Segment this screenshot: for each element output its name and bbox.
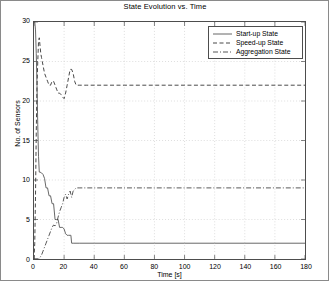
- y-tick-label: 5: [2, 216, 30, 224]
- y-tick-label: 20: [2, 97, 30, 105]
- y-tick-label: 10: [2, 176, 30, 184]
- legend-line-sample-dashdot: [212, 48, 233, 56]
- y-tick-label: 15: [2, 137, 30, 145]
- x-axis-label: Time [s]: [33, 271, 306, 278]
- legend-item: Start-up State: [212, 29, 299, 38]
- series-line-2: [34, 188, 305, 259]
- legend-item: Speed-up State: [212, 38, 299, 47]
- series-line-1: [34, 38, 305, 259]
- chart-title: State Evolution vs. Time: [0, 2, 330, 11]
- x-tick-label: 140: [232, 262, 258, 271]
- x-tick-label: 20: [50, 262, 76, 271]
- y-tick-label: 25: [2, 57, 30, 65]
- legend-line-sample-solid: [212, 30, 233, 38]
- legend-label: Speed-up State: [236, 38, 283, 47]
- x-tick-label: 160: [263, 262, 289, 271]
- y-axis-ticks: 051015202530: [0, 21, 30, 260]
- x-tick-label: 100: [172, 262, 198, 271]
- legend-label: Start-up State: [236, 29, 278, 38]
- x-tick-label: 60: [111, 262, 137, 271]
- legend-item: Aggregation State: [212, 47, 299, 56]
- x-tick-label: 0: [20, 262, 46, 271]
- chart-legend: Start-up StateSpeed-up StateAggregation …: [208, 26, 303, 59]
- y-tick-label: 30: [2, 17, 30, 25]
- legend-line-sample-dashed: [212, 39, 233, 47]
- x-tick-label: 40: [81, 262, 107, 271]
- x-tick-label: 180: [293, 262, 319, 271]
- legend-label: Aggregation State: [236, 47, 290, 56]
- x-tick-label: 120: [202, 262, 228, 271]
- figure-canvas: State Evolution vs. Time No. of Sensors …: [0, 0, 330, 282]
- x-tick-label: 80: [141, 262, 167, 271]
